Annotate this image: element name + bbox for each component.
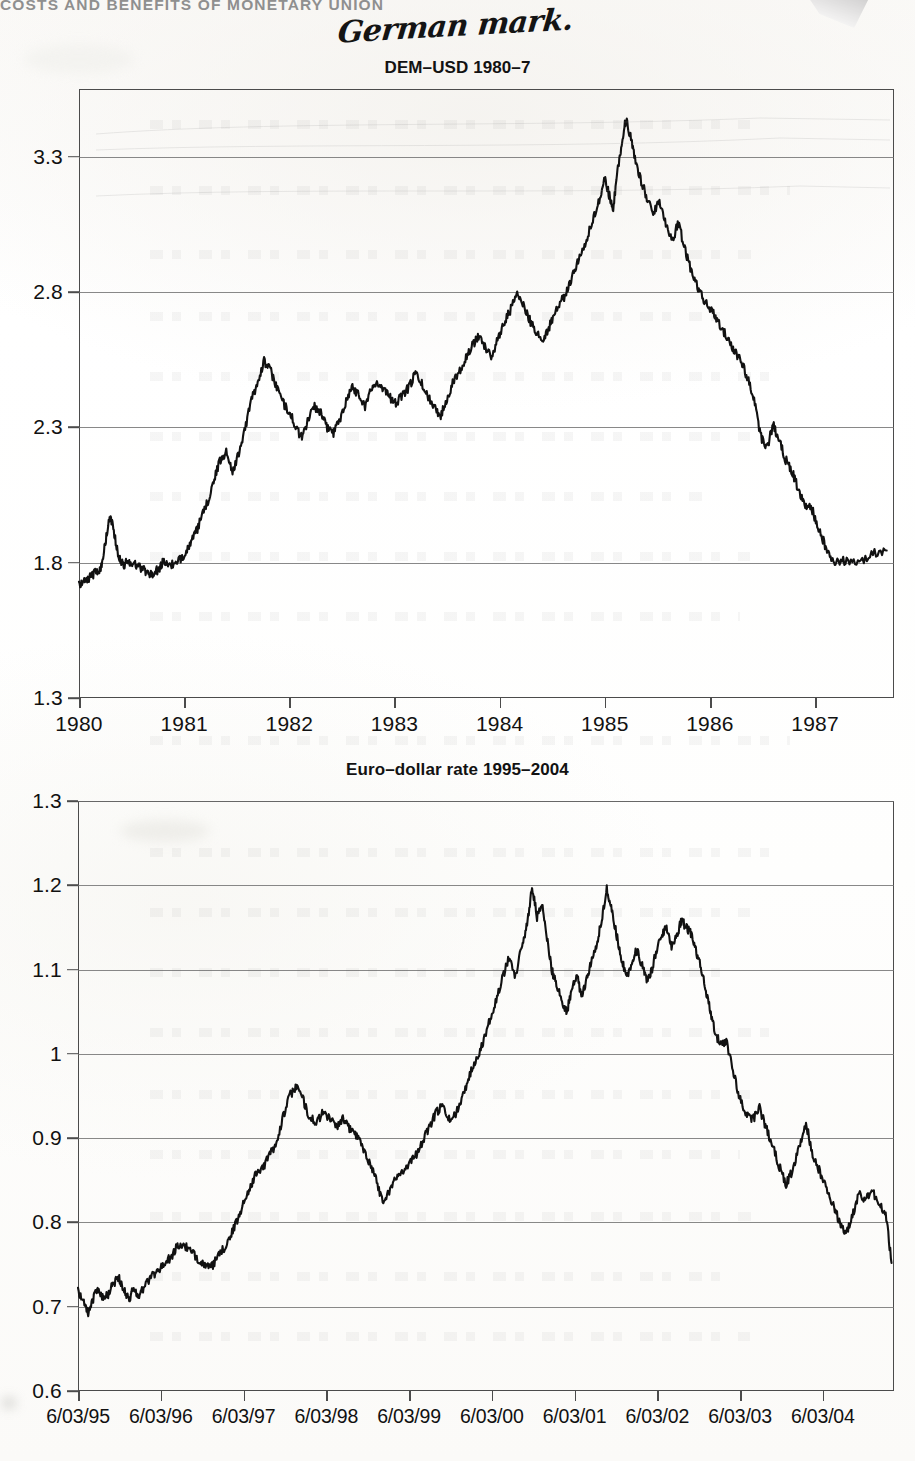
data-line <box>79 119 887 588</box>
series-line-euro-dollar <box>0 792 915 1452</box>
data-line <box>78 885 892 1316</box>
series-line-dem-usd <box>0 80 915 730</box>
chart-euro-dollar: 0.60.70.80.911.11.21.3 6/03/956/03/966/0… <box>0 792 915 1452</box>
scan-showthrough-line <box>150 736 790 745</box>
chart-title-dem-usd: DEM–USD 1980–7 <box>0 58 915 78</box>
page-corner-curl <box>785 0 881 28</box>
chart-title-euro-dollar: Euro–dollar rate 1995–2004 <box>0 760 915 780</box>
chart-dem-usd: 1.31.82.32.83.3 198019811982198319841985… <box>0 80 915 730</box>
